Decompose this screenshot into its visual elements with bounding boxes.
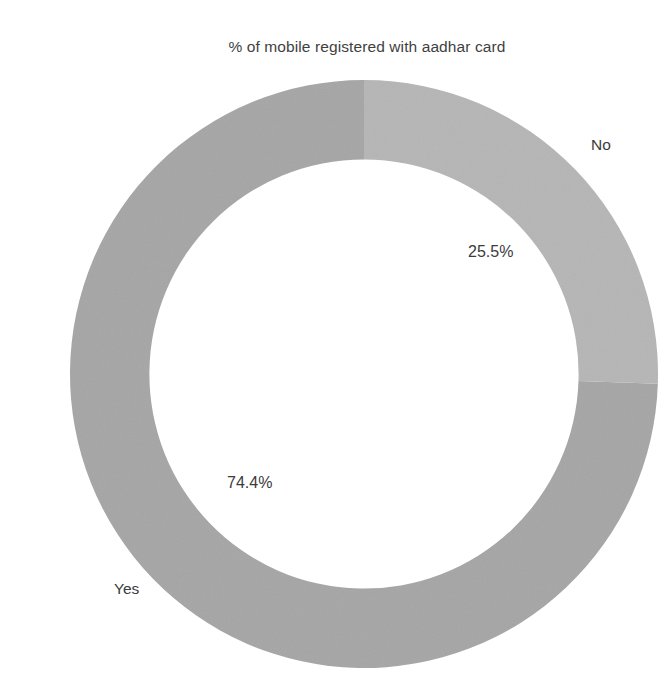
slice-value-no: 25.5%: [468, 244, 513, 260]
pie-slice-no[interactable]: [364, 80, 658, 384]
slice-label-yes: Yes: [114, 581, 139, 597]
donut-chart-figure: % of mobile registered with aadhar card: [40, 16, 662, 676]
slice-label-no: No: [591, 137, 611, 153]
donut-plot-area: [40, 16, 662, 676]
donut-svg: [40, 16, 662, 676]
slice-value-yes: 74.4%: [227, 475, 272, 491]
